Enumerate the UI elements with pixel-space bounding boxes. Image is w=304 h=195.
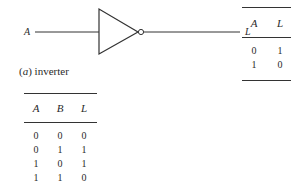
table-cell: 0 <box>53 131 67 141</box>
header-b: B <box>53 103 67 114</box>
table-cell: 0 <box>29 145 43 155</box>
table-top-rule <box>242 7 291 8</box>
table-cell: 0 <box>53 159 67 169</box>
table-cell: 1 <box>29 173 43 183</box>
table-cell: 0 <box>77 131 91 141</box>
table-cell: 1 <box>29 159 43 169</box>
header-l: L <box>273 18 287 29</box>
figure-caption: (a) inverter <box>19 66 69 77</box>
table-top-rule <box>24 93 97 94</box>
inversion-bubble <box>138 29 143 34</box>
header-a: A <box>29 103 43 114</box>
table-cell: 1 <box>273 46 287 56</box>
table-cell: 0 <box>273 60 287 70</box>
table-cell: 1 <box>77 145 91 155</box>
table-cell: 1 <box>77 159 91 169</box>
input-label: A <box>24 27 30 37</box>
table-cell: 1 <box>53 173 67 183</box>
table-cell: 0 <box>77 173 91 183</box>
xor-truth-table: A B L 0 0 0 0 1 1 1 0 1 1 1 0 <box>24 86 97 195</box>
header-a: A <box>247 18 261 29</box>
header-l: L <box>77 103 91 114</box>
inverter-truth-table: A L 0 1 1 0 <box>242 0 291 90</box>
table-cell: 0 <box>29 131 43 141</box>
table-header-rule <box>24 122 97 123</box>
caption-letter: a <box>23 65 29 77</box>
buffer-triangle <box>99 9 138 54</box>
table-bottom-rule <box>242 80 291 81</box>
caption-text: inverter <box>35 65 69 77</box>
table-cell: 1 <box>247 60 261 70</box>
table-header-rule <box>242 37 291 38</box>
table-cell: 0 <box>247 46 261 56</box>
table-cell: 1 <box>53 145 67 155</box>
